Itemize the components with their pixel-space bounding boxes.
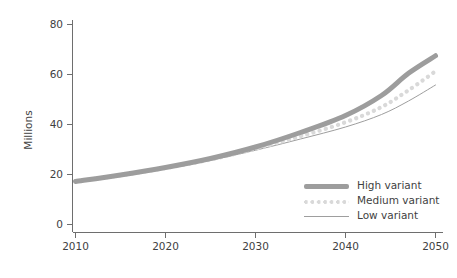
legend-label-high-variant: High variant: [350, 178, 422, 193]
x-tick-label-2020: 2020: [152, 240, 179, 252]
y-tick-label-0: 0: [56, 218, 63, 230]
legend-item-high-variant[interactable]: High variant: [303, 178, 453, 193]
y-tick-label-20: 20: [50, 168, 63, 180]
line-chart: 80 60 40 20 0 Millions 2010 2020 2030 20…: [0, 0, 457, 278]
legend-swatch-high-variant: [303, 180, 350, 192]
chart-canvas: 80 60 40 20 0 Millions 2010 2020 2030 20…: [0, 0, 457, 278]
legend-label-low-variant: Low variant: [350, 208, 418, 223]
series-line-high-variant: [76, 56, 436, 182]
legend-label-medium-variant: Medium variant: [350, 193, 439, 208]
chart-legend: High variant Medium variant Low variant: [303, 178, 453, 223]
x-tick-label-2010: 2010: [62, 240, 89, 252]
y-axis-title: Millions: [22, 110, 34, 149]
series-line-medium-variant: [76, 71, 436, 181]
series-line-low-variant: [76, 85, 436, 182]
y-tick-label-80: 80: [50, 18, 63, 30]
x-tick-label-2030: 2030: [242, 240, 269, 252]
x-tick-label-2040: 2040: [332, 240, 359, 252]
legend-item-low-variant[interactable]: Low variant: [303, 208, 453, 223]
legend-swatch-medium-variant: [303, 195, 350, 207]
legend-swatch-low-variant: [303, 210, 350, 222]
legend-item-medium-variant[interactable]: Medium variant: [303, 193, 453, 208]
x-tick-label-2050: 2050: [422, 240, 449, 252]
y-tick-label-60: 60: [50, 68, 63, 80]
y-tick-label-40: 40: [50, 118, 63, 130]
